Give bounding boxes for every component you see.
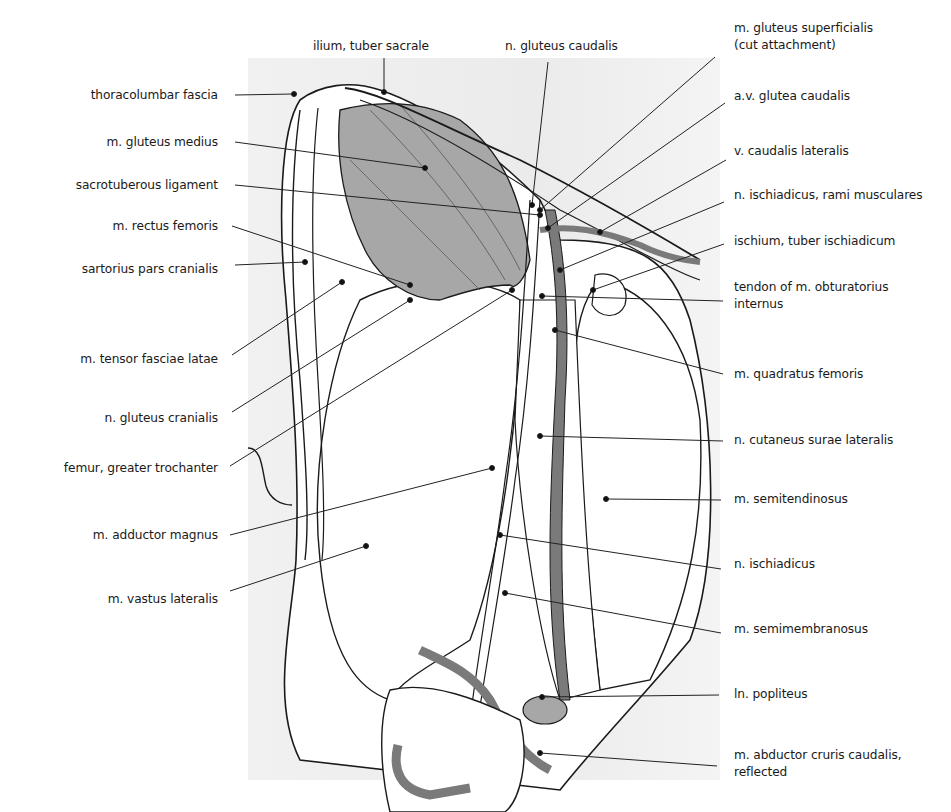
label-m-tensor-fasciae-latae: m. tensor fasciae latae <box>80 351 218 368</box>
label-line-1: m. abductor cruris caudalis, <box>734 747 901 764</box>
label-ischium-tuber-ischiadicum: ischium, tuber ischiadicum <box>734 233 895 250</box>
label-line-2: internus <box>734 296 888 313</box>
label-m-gluteus-medius: m. gluteus medius <box>106 134 218 151</box>
label-sacrotuberous-ligament: sacrotuberous ligament <box>76 177 218 194</box>
label-av-glutea-caudalis: a.v. glutea caudalis <box>734 88 850 105</box>
label-ilium-tuber-sacrale: ilium, tuber sacrale <box>313 38 429 55</box>
label-line-2: (cut attachment) <box>734 37 873 54</box>
label-line-1: tendon of m. obturatorius <box>734 279 888 296</box>
label-n-gluteus-caudalis: n. gluteus caudalis <box>505 38 618 55</box>
label-femur-greater-trochanter: femur, greater trochanter <box>64 460 218 477</box>
hindlimb-illustration <box>0 0 951 812</box>
label-m-adductor-magnus: m. adductor magnus <box>93 527 218 544</box>
label-v-caudalis-lateralis: v. caudalis lateralis <box>734 143 849 160</box>
label-line-2: reflected <box>734 764 901 781</box>
label-n-ischiadicus: n. ischiadicus <box>734 556 815 573</box>
label-tendon-obturatorius-internus: tendon of m. obturatorius internus <box>734 279 888 313</box>
label-thoracolumbar-fascia: thoracolumbar fascia <box>91 87 218 104</box>
label-line-1: m. gluteus superficialis <box>734 20 873 37</box>
greater-trochanter <box>248 448 292 505</box>
label-sartorius-pars-cranialis: sartorius pars cranialis <box>82 261 218 278</box>
anatomy-figure: ilium, tuber sacrale n. gluteus caudalis… <box>0 0 951 812</box>
popliteal-lymph-node <box>523 696 567 724</box>
label-m-rectus-femoris: m. rectus femoris <box>113 218 218 235</box>
label-n-gluteus-cranialis: n. gluteus cranialis <box>105 410 218 427</box>
label-ln-popliteus: ln. popliteus <box>734 686 808 703</box>
label-m-semimembranosus: m. semimembranosus <box>734 621 868 638</box>
label-n-ischiadicus-rami-musculares: n. ischiadicus, rami musculares <box>734 187 922 204</box>
label-m-abductor-cruris-caudalis: m. abductor cruris caudalis, reflected <box>734 747 901 781</box>
label-m-quadratus-femoris: m. quadratus femoris <box>734 366 863 383</box>
label-m-vastus-lateralis: m. vastus lateralis <box>108 591 218 608</box>
label-n-cutaneus-surae-lateralis: n. cutaneus surae lateralis <box>734 432 893 449</box>
label-m-semitendinosus: m. semitendinosus <box>734 491 848 508</box>
label-m-gluteus-superficialis: m. gluteus superficialis (cut attachment… <box>734 20 873 54</box>
